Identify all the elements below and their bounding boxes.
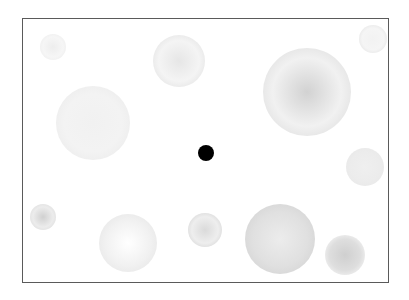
blurred-disc-bottom-left-small bbox=[30, 204, 56, 230]
blurred-disc-bottom-left-mid bbox=[99, 214, 157, 272]
blurred-disc-top-left-small bbox=[40, 34, 66, 60]
blurred-disc-bottom-large bbox=[245, 204, 315, 274]
fixation-dot bbox=[198, 145, 214, 161]
blurred-disc-bottom-center-ring bbox=[188, 213, 222, 247]
blurred-disc-top-right-large bbox=[263, 48, 351, 136]
blurred-disc-top-right-corner bbox=[359, 25, 387, 53]
blurred-disc-top-center bbox=[153, 35, 205, 87]
blurred-disc-bottom-right bbox=[325, 235, 365, 275]
blurred-disc-right-mid bbox=[346, 148, 384, 186]
blurred-disc-left-large bbox=[56, 86, 130, 160]
